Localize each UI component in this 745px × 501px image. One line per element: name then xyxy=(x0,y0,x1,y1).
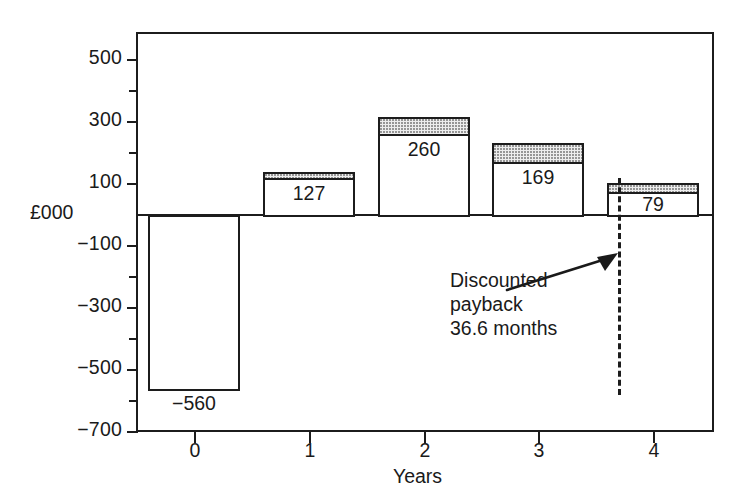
y-tick-neg100 xyxy=(127,245,138,247)
x-axis-label-4: 4 xyxy=(634,439,674,462)
annotation-line-2: payback xyxy=(450,292,557,316)
y-axis-label-500: 500 xyxy=(36,46,122,69)
bar-cap-year-3 xyxy=(492,143,584,164)
y-axis-label-neg300: −300 xyxy=(36,294,122,317)
y-tick-100 xyxy=(127,183,138,185)
y-axis-title: £000 xyxy=(30,201,73,224)
y-tick-neg500 xyxy=(127,369,138,371)
bar-label-year-2: 260 xyxy=(378,138,470,161)
y-tick-minor-neg600 xyxy=(129,400,138,402)
x-axis-label-0: 0 xyxy=(175,439,215,462)
y-tick-neg700 xyxy=(127,431,138,433)
y-tick-minor-neg200 xyxy=(129,276,138,278)
bar-label-year-1: 127 xyxy=(263,182,355,205)
y-axis-label-neg700: −700 xyxy=(36,418,122,441)
x-axis-label-1: 1 xyxy=(290,439,330,462)
x-axis-label-3: 3 xyxy=(519,439,559,462)
y-tick-minor-200 xyxy=(129,152,138,154)
y-axis-label-100: 100 xyxy=(36,170,122,193)
bar-cap-year-1 xyxy=(263,172,355,180)
y-axis-label-300: 300 xyxy=(36,108,122,131)
y-tick-minor-400 xyxy=(129,90,138,92)
y-tick-500 xyxy=(127,59,138,61)
annotation-line-3: 36.6 months xyxy=(450,316,557,340)
bar-cap-year-2 xyxy=(378,117,470,136)
y-tick-minor-neg400 xyxy=(129,338,138,340)
x-axis-label-2: 2 xyxy=(405,439,445,462)
bar-label-year-3: 169 xyxy=(492,166,584,189)
discounted-payback-marker-line xyxy=(618,178,621,395)
x-axis-title-wrapper: Years xyxy=(0,465,745,488)
y-axis-label-neg100: −100 xyxy=(36,232,122,255)
discounted-payback-annotation: Discounted payback 36.6 months xyxy=(450,268,557,340)
bar-label-year-0: −560 xyxy=(148,392,240,415)
chart-container: 500 300 100 −100 −300 −500 −700 £000 0 1… xyxy=(0,0,745,501)
y-tick-neg300 xyxy=(127,307,138,309)
bar-year-0 xyxy=(148,215,240,391)
y-tick-300 xyxy=(127,121,138,123)
y-axis-label-neg500: −500 xyxy=(36,356,122,379)
annotation-line-1: Discounted xyxy=(450,268,557,292)
x-axis-title: Years xyxy=(393,465,442,487)
